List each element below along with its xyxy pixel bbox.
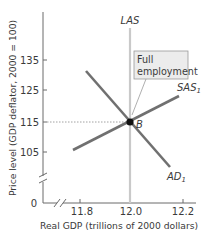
origin-label: 0 <box>31 198 37 209</box>
callout-text-line2: employment <box>137 66 198 77</box>
y-tick-label: 115 <box>20 117 39 128</box>
callout-text-line1: Full <box>137 54 153 65</box>
x-tick-label: 12.0 <box>120 206 142 217</box>
y-axis-title: Price level (GDP deflator, 2000 = 100) <box>7 20 18 196</box>
y-tick-label: 105 <box>20 147 39 158</box>
x-axis-title: Real GDP (trillions of 2000 dollars) <box>40 220 198 231</box>
y-ticks <box>43 60 47 152</box>
point-b-label: B <box>136 119 143 130</box>
x-tick-label: 11.8 <box>71 206 93 217</box>
x-ticks <box>80 199 183 203</box>
equilibrium-point-b <box>126 118 133 125</box>
y-axis-break-icon <box>39 173 47 183</box>
sas-label: SAS1 <box>177 82 201 95</box>
x-tick-label: 12.2 <box>172 206 194 217</box>
callout-pointer <box>132 79 146 115</box>
ad-label: AD1 <box>166 171 186 184</box>
chart-canvas: 135 125 115 105 0 11.8 12.0 12.2 Price l… <box>0 0 207 236</box>
las-label: LAS <box>121 15 140 26</box>
y-tick-label: 125 <box>20 85 39 96</box>
ad-curve <box>86 71 170 167</box>
sas-curve <box>73 96 179 150</box>
y-tick-label: 135 <box>20 55 39 66</box>
